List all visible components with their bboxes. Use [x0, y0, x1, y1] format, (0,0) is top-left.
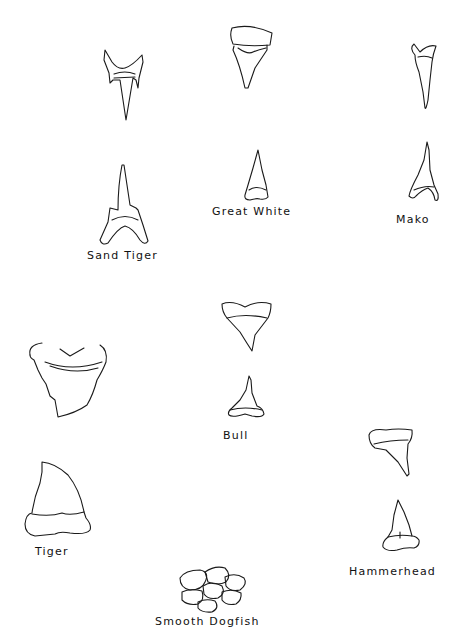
- label-mako: Mako: [396, 213, 430, 226]
- label-hammerhead: Hammerhead: [349, 565, 436, 578]
- hammerhead-upper-tooth: [369, 429, 412, 476]
- mako-upper-tooth: [412, 44, 436, 108]
- sand-tiger-lower-tooth: [100, 165, 148, 244]
- bull-upper-tooth: [222, 303, 271, 351]
- great-white-upper-tooth: [231, 26, 272, 88]
- label-great-white: Great White: [212, 205, 291, 218]
- tiger-lower-tooth: [25, 462, 91, 536]
- bull-lower-tooth: [228, 376, 264, 417]
- mako-lower-tooth: [409, 142, 438, 200]
- great-white-lower-tooth: [245, 150, 268, 200]
- label-tiger: Tiger: [35, 545, 69, 558]
- sand-tiger-upper-tooth: [104, 50, 143, 120]
- tiger-upper-tooth: [30, 343, 107, 417]
- smooth-dogfish-teeth: [180, 567, 245, 612]
- label-bull: Bull: [223, 429, 248, 442]
- teeth-drawings: [0, 0, 455, 639]
- label-sand-tiger: Sand Tiger: [87, 249, 158, 262]
- shark-teeth-diagram: Sand Tiger Great White Mako Tiger Bull H…: [0, 0, 455, 639]
- hammerhead-lower-tooth: [383, 500, 419, 551]
- label-smooth-dogfish: Smooth Dogfish: [155, 615, 260, 628]
